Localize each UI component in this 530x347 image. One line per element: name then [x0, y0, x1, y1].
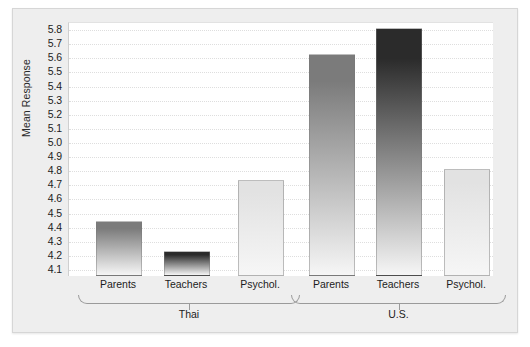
- y-axis-tick: 5.0: [48, 136, 62, 148]
- category-label: Psychol.: [446, 278, 486, 290]
- plot-area: [68, 22, 493, 276]
- y-axis-tick: 4.6: [48, 192, 62, 204]
- bar: [309, 54, 355, 276]
- category-label: Parents: [100, 278, 136, 290]
- gridline: [69, 58, 493, 59]
- category-label: Psychol.: [240, 278, 280, 290]
- y-axis-tick: 4.4: [48, 221, 62, 233]
- y-axis-tick: 5.7: [48, 37, 62, 49]
- gridline: [69, 30, 493, 31]
- category-label: Teachers: [377, 278, 420, 290]
- y-axis-tick: 5.3: [48, 94, 62, 106]
- y-axis-title: Mean Response: [20, 28, 32, 168]
- y-axis-tick: 4.2: [48, 249, 62, 261]
- bar-body: [164, 251, 210, 276]
- gridline: [69, 44, 493, 45]
- y-axis-tick: 5.5: [48, 65, 62, 77]
- bar-chart: Mean Response 5.85.75.65.55.45.35.25.15.…: [0, 0, 530, 347]
- y-axis-tick: 5.2: [48, 108, 62, 120]
- y-axis-tick: 4.7: [48, 178, 62, 190]
- group-bracket: [291, 295, 506, 304]
- bar-body: [96, 221, 142, 276]
- y-axis-tick-labels: 5.85.75.65.55.45.35.25.15.04.94.84.74.64…: [36, 22, 62, 276]
- bar-body: [376, 28, 422, 276]
- group-label: Thai: [179, 308, 199, 320]
- bar: [376, 28, 422, 276]
- bar: [444, 169, 490, 276]
- bar: [96, 221, 142, 276]
- gridline: [69, 171, 493, 172]
- y-axis-tick: 5.8: [48, 23, 62, 35]
- gridline: [69, 115, 493, 116]
- bar-body: [444, 169, 490, 276]
- y-axis-tick: 4.3: [48, 235, 62, 247]
- y-axis-tick: 4.9: [48, 150, 62, 162]
- y-axis-tick: 5.6: [48, 51, 62, 63]
- category-label: Parents: [313, 278, 349, 290]
- gridline: [69, 72, 493, 73]
- bar-body: [309, 54, 355, 276]
- gridline: [69, 129, 493, 130]
- bar: [238, 180, 284, 276]
- y-axis-tick: 5.4: [48, 80, 62, 92]
- gridline: [69, 157, 493, 158]
- gridline: [69, 101, 493, 102]
- group-bracket: [78, 295, 300, 304]
- category-label: Teachers: [165, 278, 208, 290]
- gridline: [69, 143, 493, 144]
- y-axis-tick: 5.1: [48, 122, 62, 134]
- y-axis-tick: 4.1: [48, 263, 62, 275]
- y-axis-tick: 4.5: [48, 207, 62, 219]
- gridline: [69, 87, 493, 88]
- bar-body: [238, 180, 284, 276]
- y-axis-tick: 4.8: [48, 164, 62, 176]
- bar: [164, 251, 210, 276]
- group-label: U.S.: [388, 308, 408, 320]
